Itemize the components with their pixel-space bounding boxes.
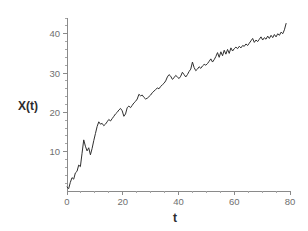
y-axis-title: X(t) — [18, 99, 38, 113]
x-tick-label: 40 — [173, 196, 184, 207]
data-series-line — [67, 24, 286, 189]
x-tick-label: 20 — [117, 196, 128, 207]
y-tick-label: 10 — [49, 146, 60, 157]
x-axis-title: t — [173, 211, 177, 225]
y-tick-label: 40 — [49, 28, 60, 39]
x-tick-label: 80 — [285, 196, 296, 207]
chart-axes — [67, 18, 290, 191]
x-tick-label: 60 — [229, 196, 240, 207]
x-axis-ticks — [67, 191, 290, 195]
chart-figure: 10203040 020406080 X(t) t — [0, 0, 308, 231]
y-axis-tick-labels: 10203040 — [49, 28, 60, 157]
y-tick-label: 20 — [49, 107, 60, 118]
x-tick-label: 0 — [64, 196, 69, 207]
line-chart: 10203040 020406080 X(t) t — [0, 0, 308, 231]
y-tick-label: 30 — [49, 68, 60, 79]
y-axis-ticks — [63, 18, 67, 183]
x-axis-tick-labels: 020406080 — [64, 196, 295, 207]
